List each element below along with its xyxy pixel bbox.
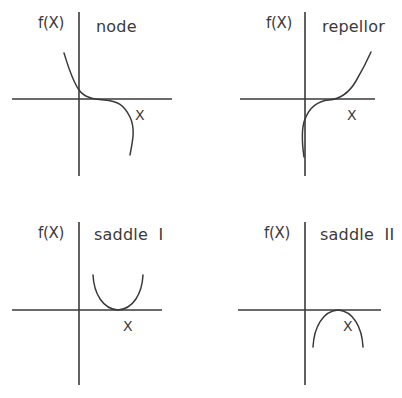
- panel-node: f(X) node X: [0, 0, 201, 199]
- panel-title-repellor: repellor: [322, 19, 385, 35]
- y-axis-label: f(X): [266, 16, 292, 31]
- y-axis-label: f(X): [264, 226, 290, 241]
- node-curve: [64, 53, 133, 155]
- panel-repellor: f(X) repellor X: [201, 0, 402, 199]
- panel-title-node: node: [96, 19, 137, 35]
- repellor-curve: [302, 52, 371, 157]
- x-axis-label: X: [343, 319, 353, 333]
- panel-saddle-two: f(X) saddle II X: [201, 199, 402, 398]
- x-axis-label: X: [347, 108, 357, 122]
- panel-title-saddle-two: saddle II: [320, 227, 394, 243]
- y-axis-label: f(X): [38, 16, 64, 31]
- x-axis-label: X: [135, 108, 145, 122]
- x-axis-label: X: [123, 319, 133, 333]
- panel-saddle-one: f(X) saddle I X: [0, 199, 201, 398]
- y-axis-label: f(X): [38, 226, 64, 241]
- saddle-two-curve: [313, 310, 363, 347]
- fixed-point-classification-figure: f(X) node X f(X) repellor X f(X) saddle …: [0, 0, 402, 398]
- panel-title-saddle-one: saddle I: [94, 227, 163, 243]
- saddle-one-curve: [93, 275, 143, 310]
